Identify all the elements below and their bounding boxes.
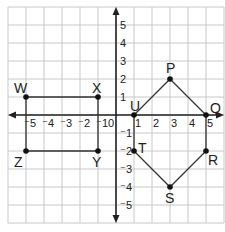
point-label-w: W xyxy=(14,80,28,96)
y-tick-label: 2 xyxy=(120,73,126,85)
point-t xyxy=(131,148,137,154)
point-label-q: Q xyxy=(210,100,221,116)
y-tick-label: ⁻3 xyxy=(120,163,132,175)
y-tick-label: ⁻5 xyxy=(120,199,132,211)
x-tick-label: 2 xyxy=(153,117,159,129)
x-axis-left-arrow-icon xyxy=(8,112,16,119)
point-label-z: Z xyxy=(14,154,23,170)
point-p xyxy=(167,76,173,82)
x-tick-label: 0 xyxy=(108,117,114,129)
point-s xyxy=(167,184,173,190)
y-tick-label: ⁻2 xyxy=(120,145,132,157)
x-tick-label: 3 xyxy=(171,117,177,129)
point-label-x: X xyxy=(92,80,102,96)
coordinate-plane: ⁻5⁻4⁻3⁻2⁻101234554321⁻1⁻2⁻3⁻4⁻5 WXYZPQRS… xyxy=(0,0,225,232)
x-tick-label: 5 xyxy=(207,117,213,129)
y-tick-label: 1 xyxy=(120,91,126,103)
y-tick-label: 3 xyxy=(120,55,126,67)
point-y xyxy=(95,148,101,154)
y-tick-label: ⁻1 xyxy=(120,127,132,139)
point-label-u: U xyxy=(130,98,140,114)
y-tick-label: ⁻4 xyxy=(120,181,132,193)
x-tick-label: 1 xyxy=(135,117,141,129)
y-tick-label: 5 xyxy=(120,19,126,31)
x-tick-label: 4 xyxy=(189,117,195,129)
axes xyxy=(8,7,224,223)
point-label-y: Y xyxy=(92,154,102,170)
point-label-p: P xyxy=(166,60,175,76)
point-q xyxy=(203,112,209,118)
x-tick-label: ⁻2 xyxy=(78,117,90,129)
x-tick-label: ⁻3 xyxy=(60,117,72,129)
point-z xyxy=(23,148,29,154)
y-axis-up-arrow-icon xyxy=(113,7,120,15)
point-label-t: T xyxy=(138,140,147,156)
x-tick-label: ⁻4 xyxy=(42,117,54,129)
point-label-r: R xyxy=(208,152,218,168)
y-tick-label: 4 xyxy=(120,37,126,49)
y-axis-down-arrow-icon xyxy=(113,215,120,223)
point-label-s: S xyxy=(165,190,174,206)
